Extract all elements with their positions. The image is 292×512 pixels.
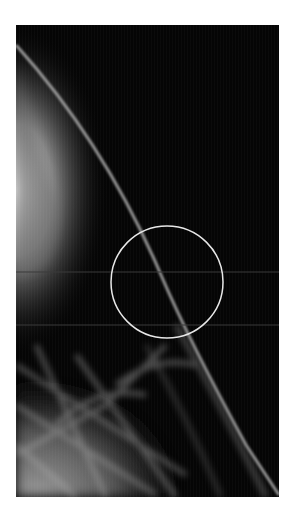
annotation-layer bbox=[16, 25, 279, 497]
xray-image bbox=[16, 25, 279, 497]
region-of-interest-circle bbox=[111, 226, 223, 338]
